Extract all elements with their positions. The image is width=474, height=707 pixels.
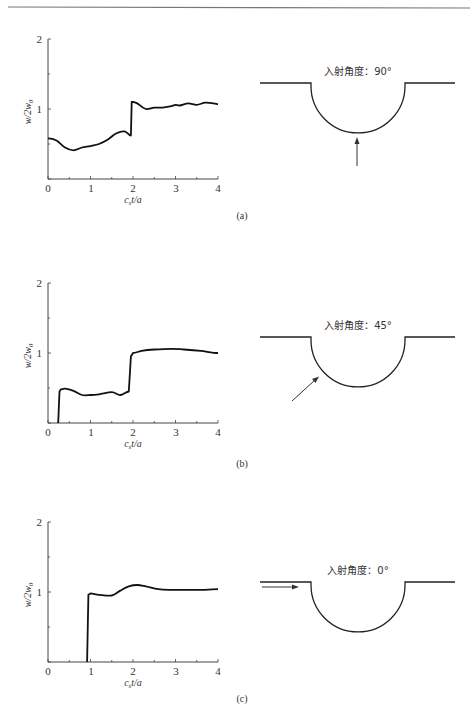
response-curve bbox=[58, 349, 218, 423]
x-axis-label: cst/a bbox=[124, 677, 142, 690]
panel-caption: (a) bbox=[236, 210, 247, 222]
response-curve bbox=[48, 102, 218, 150]
x-tick-4: 4 bbox=[215, 665, 221, 677]
incidence-angle-label: 入射角度：90° bbox=[324, 65, 392, 77]
x-tick-2: 2 bbox=[130, 665, 136, 677]
arrow-head-icon bbox=[292, 585, 299, 590]
canyon-profile bbox=[260, 83, 455, 133]
x-tick-4: 4 bbox=[215, 426, 221, 438]
panel-c: 2 1 0 1 2 3 4 cst/a w/2w0 入射角度：0° (c) bbox=[22, 516, 455, 705]
incidence-angle-label: 入射角度：45° bbox=[324, 319, 392, 331]
x-tick-1: 1 bbox=[88, 665, 94, 677]
chart-a bbox=[48, 39, 218, 179]
panel-b: 2 1 0 1 2 3 4 cst/a w/2w0 入射角度：45° (b) bbox=[22, 277, 455, 470]
panel-a: 2 1 0 1 2 3 4 cst/a w/2w0 入射角度：90° (a) bbox=[22, 33, 455, 222]
x-tick-4: 4 bbox=[215, 182, 221, 194]
y-tick-1: 1 bbox=[37, 347, 43, 359]
x-tick-0: 0 bbox=[45, 665, 51, 677]
canyon-profile bbox=[260, 337, 455, 387]
x-tick-2: 2 bbox=[130, 182, 136, 194]
y-axis-label: w/2w0 bbox=[22, 99, 35, 124]
incident-wave-arrow bbox=[292, 380, 315, 401]
y-tick-2: 2 bbox=[37, 516, 43, 528]
diagram-a: 入射角度：90° bbox=[260, 65, 455, 166]
x-axis-label: cst/a bbox=[124, 438, 142, 451]
x-tick-1: 1 bbox=[88, 426, 94, 438]
chart-c bbox=[48, 522, 218, 662]
x-tick-0: 0 bbox=[45, 182, 51, 194]
y-axis-label: w/2w0 bbox=[22, 582, 35, 607]
diagram-c: 入射角度：0° bbox=[260, 564, 455, 632]
x-tick-3: 3 bbox=[173, 182, 179, 194]
x-tick-0: 0 bbox=[45, 426, 51, 438]
x-tick-2: 2 bbox=[130, 426, 136, 438]
y-tick-1: 1 bbox=[37, 586, 43, 598]
canyon-profile bbox=[260, 582, 455, 632]
y-tick-1: 1 bbox=[37, 103, 43, 115]
chart-b bbox=[48, 283, 218, 423]
panel-caption: (b) bbox=[236, 458, 248, 470]
y-tick-2: 2 bbox=[37, 277, 43, 289]
x-tick-3: 3 bbox=[173, 426, 179, 438]
x-tick-1: 1 bbox=[88, 182, 94, 194]
response-curve bbox=[87, 585, 218, 662]
x-axis-label: cst/a bbox=[124, 194, 142, 207]
arrow-head-icon bbox=[355, 137, 360, 144]
figure-canvas: 2 1 0 1 2 3 4 cst/a w/2w0 入射角度：90° (a) 2… bbox=[0, 0, 474, 707]
y-axis-label: w/2w0 bbox=[22, 343, 35, 368]
diagram-b: 入射角度：45° bbox=[260, 319, 455, 401]
header-rule bbox=[8, 7, 470, 8]
x-tick-3: 3 bbox=[173, 665, 179, 677]
incidence-angle-label: 入射角度：0° bbox=[327, 564, 388, 576]
y-tick-2: 2 bbox=[37, 33, 43, 45]
panel-caption: (c) bbox=[236, 693, 247, 705]
